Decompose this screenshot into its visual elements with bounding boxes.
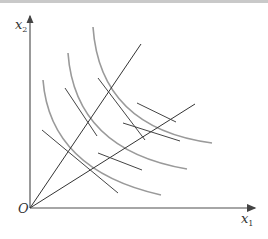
x-axis-label: x1 bbox=[241, 211, 253, 228]
isoquant-middle bbox=[68, 53, 187, 169]
tangent-line bbox=[98, 78, 145, 140]
isoquant-outer bbox=[93, 27, 212, 143]
tangent-line bbox=[42, 130, 118, 193]
isoquant-diagram: x2 x1 O bbox=[0, 0, 268, 239]
tangent-line bbox=[65, 88, 97, 136]
origin-label: O bbox=[18, 201, 29, 216]
y-axis-label: x2 bbox=[15, 17, 27, 34]
